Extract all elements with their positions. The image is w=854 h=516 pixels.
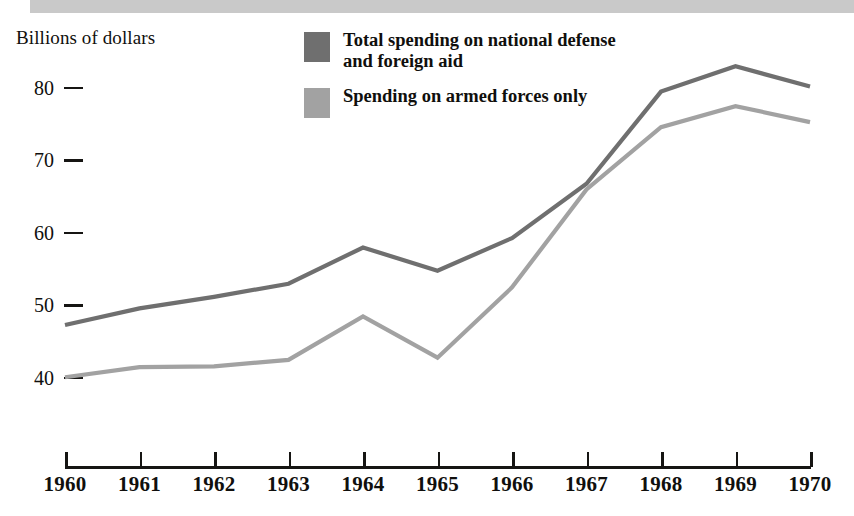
legend-swatch-armed-forces [304, 88, 330, 118]
x-axis-labels: 1960196119621963196419651966196719681969… [0, 472, 854, 506]
x-tick-mark-1963 [289, 452, 292, 467]
x-tick-mark-1969 [736, 452, 739, 467]
x-tick-mark-1967 [587, 452, 590, 467]
x-tick-mark-1968 [661, 452, 664, 467]
legend-label-total-spending: Total spending on national defense and f… [343, 30, 634, 72]
x-tick-mark-1966 [512, 452, 515, 467]
x-tick-mark-1964 [363, 452, 366, 467]
x-tick-mark-1961 [140, 452, 143, 467]
series-line-armed-forces [65, 106, 810, 377]
chart-figure: Billions of dollars 8070605040 196019611… [0, 0, 854, 516]
legend-label-armed-forces: Spending on armed forces only [343, 86, 587, 107]
x-tick-mark-1965 [438, 452, 441, 467]
legend-item-total-spending: Total spending on national defense and f… [304, 30, 634, 72]
x-tick-mark-1962 [214, 452, 217, 467]
legend: Total spending on national defense and f… [304, 30, 634, 132]
legend-swatch-total-spending [304, 32, 330, 62]
x-tick-mark-1960 [65, 452, 68, 467]
x-tick-mark-1970 [810, 452, 813, 467]
x-tick-label-1970: 1970 [765, 472, 854, 497]
legend-item-armed-forces: Spending on armed forces only [304, 86, 634, 118]
